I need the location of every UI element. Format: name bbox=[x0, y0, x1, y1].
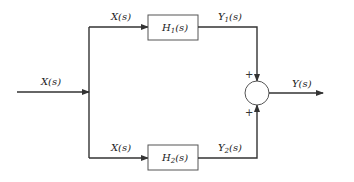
parallel-block-diagram: X(s) X(s) H1(s) Y1(s) X(s) H2(s) Y2(s) +… bbox=[0, 0, 354, 182]
summing-junction-circle bbox=[245, 81, 269, 105]
bottom-branch: X(s) H2(s) Y2(s) bbox=[89, 105, 257, 170]
top-branch: X(s) H1(s) Y1(s) bbox=[89, 11, 257, 81]
input-label: X(s) bbox=[40, 76, 61, 87]
top-plus-sign: + bbox=[245, 69, 253, 80]
top-branch-label: X(s) bbox=[110, 11, 131, 22]
bottom-plus-sign: + bbox=[245, 107, 253, 118]
input-signal: X(s) bbox=[17, 76, 89, 92]
output-signal: Y(s) bbox=[269, 78, 323, 93]
bottom-branch-label: X(s) bbox=[110, 142, 131, 153]
y2-label: Y2(s) bbox=[218, 142, 242, 155]
y1-label: Y1(s) bbox=[218, 11, 242, 24]
output-label: Y(s) bbox=[292, 78, 312, 89]
